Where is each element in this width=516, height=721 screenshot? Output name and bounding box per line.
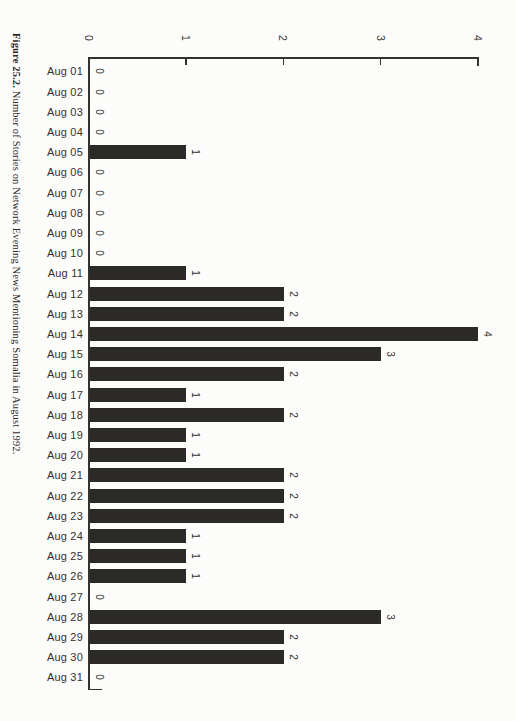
bar-row: Aug 212 (0, 465, 516, 485)
bar-row: Aug 051 (0, 142, 516, 162)
category-label: Aug 04 (0, 122, 83, 142)
value-label: 2 (288, 409, 300, 421)
bar-row: Aug 222 (0, 486, 516, 506)
bar (90, 145, 186, 159)
bar (90, 509, 284, 523)
bar-row: Aug 132 (0, 304, 516, 324)
bar-row: Aug 040 (0, 122, 516, 142)
category-label: Aug 14 (0, 324, 83, 344)
value-label: 0 (94, 126, 106, 138)
value-label: 2 (288, 469, 300, 481)
bar-row: Aug 060 (0, 162, 516, 182)
value-axis-tick-label: 2 (277, 32, 289, 44)
bar-row: Aug 270 (0, 587, 516, 607)
category-label: Aug 11 (0, 263, 83, 283)
value-axis-tick-label: 1 (180, 32, 192, 44)
category-label: Aug 26 (0, 566, 83, 586)
category-label: Aug 10 (0, 243, 83, 263)
value-label: 2 (288, 651, 300, 663)
category-label: Aug 19 (0, 425, 83, 445)
value-label: 0 (94, 207, 106, 219)
bar (90, 569, 186, 583)
bar-row: Aug 090 (0, 223, 516, 243)
value-label: 1 (190, 429, 202, 441)
bar (90, 266, 186, 280)
value-axis-tick-label: 3 (375, 32, 387, 44)
value-label: 0 (94, 227, 106, 239)
bar-row: Aug 241 (0, 526, 516, 546)
bar-row: Aug 251 (0, 546, 516, 566)
bar-row: Aug 232 (0, 506, 516, 526)
value-label: 2 (288, 288, 300, 300)
category-label: Aug 30 (0, 647, 83, 667)
category-label: Aug 06 (0, 162, 83, 182)
category-label: Aug 27 (0, 587, 83, 607)
bar (90, 327, 478, 341)
value-label: 2 (288, 368, 300, 380)
category-label: Aug 22 (0, 486, 83, 506)
value-label: 1 (190, 267, 202, 279)
category-label: Aug 31 (0, 667, 83, 687)
bar (90, 428, 186, 442)
value-label: 0 (94, 106, 106, 118)
bar (90, 529, 186, 543)
bar-row: Aug 261 (0, 566, 516, 586)
bar-row: Aug 153 (0, 344, 516, 364)
axis-end-foot (88, 689, 102, 691)
bar (90, 610, 381, 624)
value-label: 3 (385, 348, 397, 360)
bar-row: Aug 162 (0, 364, 516, 384)
category-label: Aug 05 (0, 142, 83, 162)
value-label: 1 (190, 389, 202, 401)
bar (90, 489, 284, 503)
bar-row: Aug 111 (0, 263, 516, 283)
bar-row: Aug 144 (0, 324, 516, 344)
category-label: Aug 17 (0, 385, 83, 405)
bar-row: Aug 070 (0, 183, 516, 203)
value-label: 2 (288, 510, 300, 522)
category-label: Aug 23 (0, 506, 83, 526)
category-label: Aug 29 (0, 627, 83, 647)
category-label: Aug 20 (0, 445, 83, 465)
bar-row: Aug 310 (0, 667, 516, 687)
value-label: 1 (190, 146, 202, 158)
category-label: Aug 03 (0, 102, 83, 122)
bar-row: Aug 171 (0, 385, 516, 405)
value-label: 4 (482, 328, 494, 340)
category-label: Aug 18 (0, 405, 83, 425)
category-label: Aug 12 (0, 284, 83, 304)
bar (90, 468, 284, 482)
category-label: Aug 25 (0, 546, 83, 566)
bar (90, 388, 186, 402)
value-label: 2 (288, 631, 300, 643)
bar (90, 630, 284, 644)
bar-row: Aug 201 (0, 445, 516, 465)
value-label: 0 (94, 671, 106, 683)
figure-page: Figure 25.2. Number of Stories on Networ… (0, 0, 516, 721)
bar (90, 287, 284, 301)
bar-row: Aug 191 (0, 425, 516, 445)
category-label: Aug 13 (0, 304, 83, 324)
value-label: 1 (190, 449, 202, 461)
bar-row: Aug 182 (0, 405, 516, 425)
bar-chart: 01234Aug 010Aug 020Aug 030Aug 040Aug 051… (0, 0, 516, 721)
category-label: Aug 07 (0, 183, 83, 203)
bar (90, 448, 186, 462)
bar-row: Aug 292 (0, 627, 516, 647)
category-label: Aug 09 (0, 223, 83, 243)
value-label: 0 (94, 187, 106, 199)
category-label: Aug 28 (0, 607, 83, 627)
value-label: 0 (94, 65, 106, 77)
bar-row: Aug 122 (0, 284, 516, 304)
bar (90, 549, 186, 563)
bar (90, 367, 284, 381)
bar-row: Aug 302 (0, 647, 516, 667)
category-label: Aug 16 (0, 364, 83, 384)
value-label: 2 (288, 490, 300, 502)
value-label: 0 (94, 86, 106, 98)
bar-row: Aug 100 (0, 243, 516, 263)
value-label: 2 (288, 308, 300, 320)
value-label: 0 (94, 591, 106, 603)
bar-row: Aug 080 (0, 203, 516, 223)
value-label: 1 (190, 550, 202, 562)
